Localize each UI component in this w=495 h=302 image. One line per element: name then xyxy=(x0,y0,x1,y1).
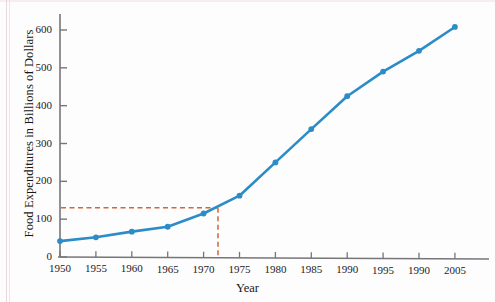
y-axis-ticks xyxy=(60,30,67,257)
data-point-1955 xyxy=(93,234,99,240)
data-point-1985 xyxy=(308,126,314,132)
data-point-1990 xyxy=(344,93,350,99)
x-axis-line xyxy=(58,257,489,259)
data-point-1975 xyxy=(237,193,243,199)
data-point-1980 xyxy=(273,160,279,166)
data-point-markers xyxy=(57,24,458,244)
data-point-1970 xyxy=(201,211,207,217)
data-point-1960 xyxy=(129,229,135,235)
data-series-line xyxy=(60,27,455,241)
y-tick-label-600: 600 xyxy=(20,23,52,35)
line-chart-plot xyxy=(0,0,495,302)
data-point-1995 xyxy=(380,69,386,75)
y-tick-label-300: 300 xyxy=(20,137,52,149)
x-tick-label-2005: 2005 xyxy=(433,264,477,276)
axes-lines xyxy=(58,14,489,259)
chart-figure: Food Expenditures in Billions of Dollars… xyxy=(0,0,495,302)
y-tick-label-200: 200 xyxy=(20,174,52,186)
y-tick-label-100: 100 xyxy=(20,212,52,224)
data-point-1950 xyxy=(57,238,63,244)
data-point-2000 xyxy=(416,48,422,54)
data-point-1965 xyxy=(165,224,171,230)
y-tick-label-0: 0 xyxy=(20,250,52,262)
series-line-food-expenditures xyxy=(60,27,455,241)
annotation-dashed-lines xyxy=(61,208,218,258)
y-tick-label-500: 500 xyxy=(20,61,52,73)
data-point-2005 xyxy=(452,24,458,30)
y-tick-label-400: 400 xyxy=(20,99,52,111)
